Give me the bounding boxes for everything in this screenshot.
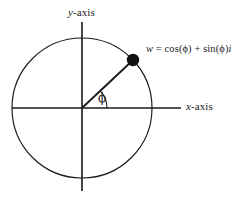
point-w-label: w = cos(ϕ) + sin(ϕ)i <box>146 44 231 55</box>
y-axis-label: y-axis <box>68 7 95 18</box>
radius-vector-line <box>82 61 132 108</box>
point-w-equation: = cos(ϕ) + sin(ϕ) <box>153 43 228 54</box>
x-axis-label-text: -axis <box>191 100 213 112</box>
point-w-marker <box>127 54 139 66</box>
x-axis-label: x-axis <box>186 101 213 112</box>
unit-circle-figure: y-axis x-axis w = cos(ϕ) + sin(ϕ)i ϕ <box>0 0 231 217</box>
imaginary-unit: i <box>229 43 231 54</box>
angle-phi-label: ϕ <box>98 92 106 104</box>
y-axis-label-text: -axis <box>73 6 95 18</box>
